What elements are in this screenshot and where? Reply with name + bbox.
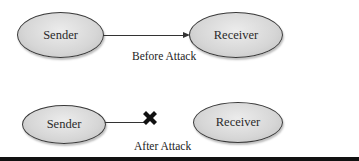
receiver-label-after: Receiver — [216, 115, 260, 130]
x-mark-icon — [0, 0, 359, 161]
caption-after-attack: After Attack — [134, 140, 191, 152]
attack-diagram: Sender Receiver Before Attack Sender Rec… — [0, 0, 359, 161]
bottom-border — [0, 157, 359, 161]
receiver-node-after: Receiver — [193, 102, 283, 143]
